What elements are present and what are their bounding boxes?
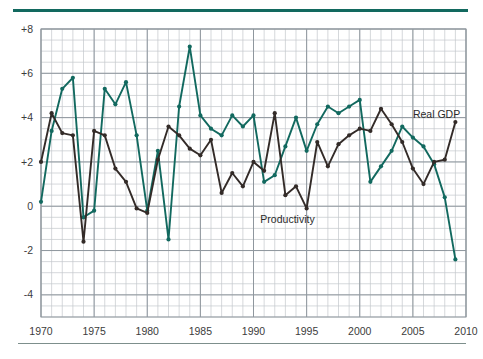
data-point (251, 113, 255, 117)
data-point (60, 131, 64, 135)
line-chart: +8+6+4+20-2-4 19701975198019851990199520… (0, 0, 483, 359)
data-point (124, 80, 128, 84)
data-point (71, 133, 75, 137)
data-point (103, 87, 107, 91)
x-tick-label: 2005 (401, 325, 425, 337)
data-point (358, 127, 362, 131)
data-point (283, 144, 287, 148)
data-point (336, 142, 340, 146)
x-tick-label: 1985 (189, 325, 213, 337)
data-point (241, 184, 245, 188)
data-point (230, 113, 234, 117)
series-label-productivity: Productivity (260, 213, 315, 225)
data-point (400, 140, 404, 144)
data-point (368, 129, 372, 133)
data-point (432, 160, 436, 164)
y-tick-label: +8 (21, 23, 33, 35)
y-tick-label: +6 (21, 67, 33, 79)
y-tick-label: 0 (27, 200, 33, 212)
data-point (262, 180, 266, 184)
y-axis-tick-labels: +8+6+4+20-2-4 (21, 23, 33, 301)
data-point (443, 158, 447, 162)
data-point (92, 129, 96, 133)
data-point (379, 164, 383, 168)
data-point (60, 87, 64, 91)
data-point (326, 164, 330, 168)
data-point (421, 182, 425, 186)
data-point (411, 166, 415, 170)
data-point (347, 104, 351, 108)
data-point (209, 127, 213, 131)
data-point (71, 76, 75, 80)
data-point (368, 180, 372, 184)
data-point (39, 160, 43, 164)
x-tick-label: 2010 (454, 325, 478, 337)
data-point (220, 191, 224, 195)
data-point (177, 133, 181, 137)
data-point (411, 135, 415, 139)
x-axis-tick-labels: 197019751980198519901995200020052010 (29, 325, 478, 337)
data-point (326, 104, 330, 108)
data-point (283, 193, 287, 197)
data-point (294, 184, 298, 188)
data-point (166, 237, 170, 241)
y-tick-label: -4 (24, 288, 33, 300)
data-point (347, 133, 351, 137)
data-point (166, 124, 170, 128)
data-point (92, 209, 96, 213)
x-tick-label: 1990 (242, 325, 266, 337)
data-point (443, 195, 447, 199)
y-tick-label: -2 (24, 244, 33, 256)
y-tick-label: +2 (21, 156, 33, 168)
data-point (379, 107, 383, 111)
data-point (81, 240, 85, 244)
data-point (209, 138, 213, 142)
chart-figure: +8+6+4+20-2-4 19701975198019851990199520… (0, 0, 483, 359)
data-point (113, 102, 117, 106)
data-point (336, 111, 340, 115)
data-point (39, 200, 43, 204)
data-point (358, 98, 362, 102)
data-point (453, 257, 457, 261)
data-point (103, 133, 107, 137)
plot-area: +8+6+4+20-2-4 19701975198019851990199520… (0, 0, 483, 359)
data-point (262, 169, 266, 173)
data-point (135, 133, 139, 137)
data-point (251, 160, 255, 164)
data-point (453, 120, 457, 124)
x-tick-label: 1980 (136, 325, 160, 337)
data-point (390, 149, 394, 153)
x-tick-label: 2000 (348, 325, 372, 337)
data-point (188, 147, 192, 151)
data-point (305, 149, 309, 153)
data-point (315, 140, 319, 144)
data-point (188, 45, 192, 49)
y-tick-label: +4 (21, 111, 33, 123)
data-point (315, 122, 319, 126)
data-point (421, 144, 425, 148)
data-point (135, 206, 139, 210)
data-point (50, 111, 54, 115)
x-tick-label: 1975 (82, 325, 106, 337)
data-point (113, 166, 117, 170)
data-point (177, 104, 181, 108)
data-point (220, 133, 224, 137)
data-point (198, 113, 202, 117)
data-point (124, 180, 128, 184)
series-label-real-gdp: Real GDP (413, 108, 460, 120)
data-point (198, 153, 202, 157)
data-point (273, 173, 277, 177)
data-point (145, 211, 149, 215)
data-point (156, 158, 160, 162)
data-point (241, 124, 245, 128)
x-tick-label: 1995 (295, 325, 319, 337)
data-point (50, 129, 54, 133)
data-point (400, 124, 404, 128)
data-point (273, 111, 277, 115)
data-point (230, 171, 234, 175)
x-tick-label: 1970 (29, 325, 53, 337)
data-point (294, 116, 298, 120)
data-point (305, 206, 309, 210)
data-point (390, 122, 394, 126)
